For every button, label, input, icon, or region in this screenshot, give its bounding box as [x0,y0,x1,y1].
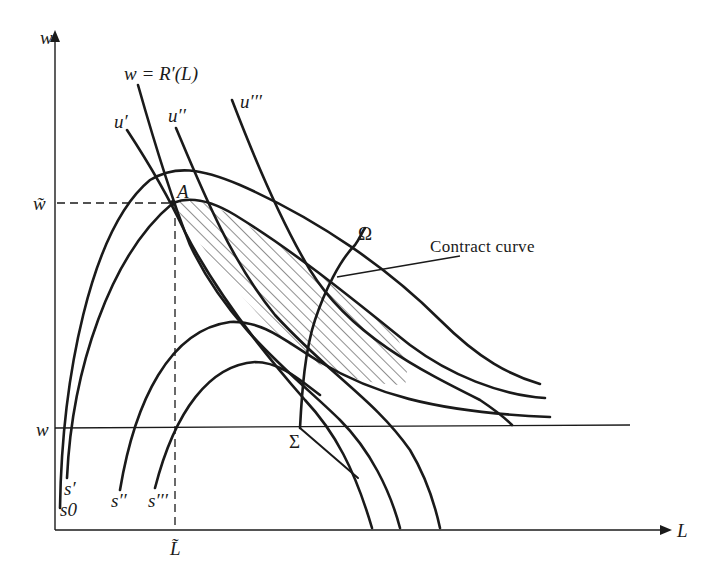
reservation-wage-line [55,425,630,428]
w-label: w [36,419,49,440]
u-prime-label: u′ [114,111,129,132]
labor-demand-label: w = R′(L) [124,63,198,85]
L-tilde-label: L̃ [169,538,181,559]
s-triple-prime-label: s′′′ [148,490,169,511]
point-sigma-label: Σ [289,431,300,452]
x-axis-label: L [676,520,688,541]
contract-curve-annotation: Contract curve [430,237,535,256]
point-A-label: A [175,181,189,202]
contract-curve-diagram: w L w̃ w L̃ A Ω Σ w = R′(L) u′ u′′ u′′′ … [0,0,722,588]
u-double-prime-label: u′′ [168,105,187,126]
isoprofit-curve-s-triple-prime [155,362,320,488]
u-triple-prime-label: u′′′ [240,91,263,112]
contract-curve-leader-line [337,256,460,277]
y-axis-label: w [40,27,53,48]
point-omega-label: Ω [358,223,372,244]
x-axis-arrow-icon [660,525,672,535]
s0-label: s0 [60,499,77,520]
s-prime-label: s′ [64,478,76,499]
point-A-marker [170,200,176,206]
sigma-connector [300,428,358,478]
s-double-prime-label: s′′ [111,490,128,511]
w-tilde-label: w̃ [33,193,46,214]
